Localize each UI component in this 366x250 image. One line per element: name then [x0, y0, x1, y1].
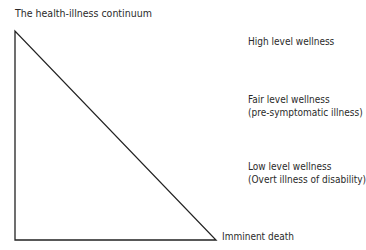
label-high-level-wellness: High level wellness [248, 35, 334, 48]
label-fair-level-wellness: Fair level wellness (pre-symptomatic ill… [248, 93, 363, 119]
label-low-level-wellness: Low level wellness (Overt illness of dis… [248, 160, 366, 186]
label-imminent-death: Imminent death [222, 230, 294, 243]
